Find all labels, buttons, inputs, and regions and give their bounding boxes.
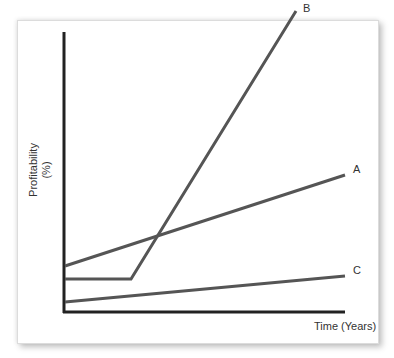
series-a-line [65,175,345,266]
series-c-label: C [353,264,361,276]
series-a-label: A [353,163,360,175]
x-axis-label: Time (Years) [314,320,376,332]
y-axis-label: Profitability (%) [27,143,53,197]
line-chart [0,0,394,358]
y-axis-label-line2: (%) [40,143,53,197]
series-b-label: B [303,2,310,14]
series-b-line [65,11,296,279]
y-axis-label-line1: Profitability [27,143,40,197]
